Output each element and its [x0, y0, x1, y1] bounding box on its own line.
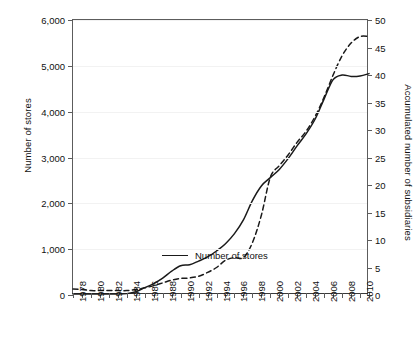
- y-axis-right-tick: [367, 268, 372, 269]
- x-axis-tick: [360, 293, 361, 298]
- chart-container: Number of stores Accumulated number of s…: [0, 0, 418, 349]
- y-axis-right-tick-label: 15: [375, 207, 386, 218]
- y-axis-left-tick-label: 5,000: [41, 60, 65, 71]
- y-axis-right-tick-label: 35: [375, 97, 386, 108]
- x-axis-tick-label: 1996: [238, 281, 249, 302]
- gridline: [73, 20, 367, 21]
- x-axis-tick: [252, 293, 253, 298]
- x-axis-tick: [163, 293, 164, 298]
- y-axis-left-tick-label: 0: [60, 290, 65, 301]
- y-axis-left-tick: [68, 249, 73, 250]
- y-axis-left-tick: [68, 158, 73, 159]
- x-axis-tick-label: 1988: [167, 281, 178, 302]
- x-axis-tick-label: 2008: [346, 281, 357, 302]
- y-axis-right-tick: [367, 130, 372, 131]
- y-axis-right-tick: [367, 158, 372, 159]
- y-axis-left-tick: [68, 66, 73, 67]
- x-axis-tick: [127, 293, 128, 298]
- x-axis-tick-label: 1980: [95, 281, 106, 302]
- x-axis-tick: [288, 293, 289, 298]
- y-axis-left-tick-label: 1,000: [41, 244, 65, 255]
- x-axis-tick: [234, 293, 235, 298]
- x-axis-tick: [342, 293, 343, 298]
- y-axis-right-tick: [367, 48, 372, 49]
- x-axis-tick-label: 1984: [131, 281, 142, 302]
- y-axis-right-tick: [367, 185, 372, 186]
- gridline: [73, 66, 367, 67]
- series-number-of-stores: [73, 74, 369, 294]
- y-axis-right-tick-label: 40: [375, 70, 386, 81]
- x-axis-tick: [181, 293, 182, 298]
- y-axis-left-tick-label: 3,000: [41, 152, 65, 163]
- y-axis-left-tick: [68, 20, 73, 21]
- y-axis-left-tick-label: 2,000: [41, 198, 65, 209]
- gridline: [73, 158, 367, 159]
- y-axis-left-tick: [68, 112, 73, 113]
- x-axis-tick-label: 1990: [185, 281, 196, 302]
- y-axis-right-tick: [367, 103, 372, 104]
- y-axis-right-tick-label: 20: [375, 180, 386, 191]
- x-axis-tick: [73, 293, 74, 298]
- y-axis-right-tick-label: 25: [375, 152, 386, 163]
- x-axis-tick-label: 2004: [310, 281, 321, 302]
- x-axis-tick: [199, 293, 200, 298]
- y-axis-left-tick: [68, 203, 73, 204]
- gridline: [73, 112, 367, 113]
- y-axis-right-tick-label: 50: [375, 15, 386, 26]
- x-axis-tick: [145, 293, 146, 298]
- gridline: [73, 203, 367, 204]
- x-axis-tick-label: 2002: [292, 281, 303, 302]
- x-axis-tick-label: 1998: [256, 281, 267, 302]
- y-axis-right-tick-label: 10: [375, 235, 386, 246]
- legend-line-swatch: [162, 255, 188, 256]
- y-axis-right-tick: [367, 20, 372, 21]
- x-axis-tick-label: 1994: [221, 281, 232, 302]
- x-axis-tick-label: 2000: [274, 281, 285, 302]
- x-axis-tick: [270, 293, 271, 298]
- chart-legend: Number of stores: [162, 250, 268, 261]
- x-axis-tick: [306, 293, 307, 298]
- y-axis-right-tick-label: 30: [375, 125, 386, 136]
- x-axis-tick-label: 2010: [364, 281, 375, 302]
- y-axis-right-tick-label: 5: [375, 262, 380, 273]
- y-axis-right-tick: [367, 213, 372, 214]
- legend-label-number-of-stores: Number of stores: [195, 250, 268, 261]
- y-axis-left-title: Number of stores: [22, 76, 33, 196]
- x-axis-tick-label: 1986: [149, 281, 160, 302]
- y-axis-right-title: Accumulated number of subsidiaries: [403, 68, 414, 258]
- y-axis-left-tick-label: 4,000: [41, 106, 65, 117]
- x-axis-tick: [109, 293, 110, 298]
- x-axis-tick-label: 2006: [328, 281, 339, 302]
- x-axis-tick-label: 1982: [113, 281, 124, 302]
- x-axis-tick: [324, 293, 325, 298]
- x-axis-tick: [91, 293, 92, 298]
- y-axis-right-tick: [367, 240, 372, 241]
- x-axis-tick-label: 1978: [77, 281, 88, 302]
- y-axis-right-tick-label: 0: [375, 290, 380, 301]
- y-axis-right-tick: [367, 75, 372, 76]
- y-axis-left-tick-label: 6,000: [41, 15, 65, 26]
- y-axis-right-tick-label: 45: [375, 42, 386, 53]
- x-axis-tick-label: 1992: [203, 281, 214, 302]
- x-axis-tick: [217, 293, 218, 298]
